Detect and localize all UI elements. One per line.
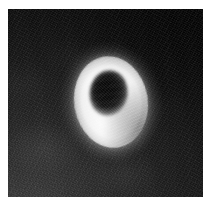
micrograph-plate (8, 9, 203, 197)
erythrocyte-specimen (67, 51, 154, 153)
micrograph-figure: red blood cell (erythrocyte) (0, 0, 216, 207)
